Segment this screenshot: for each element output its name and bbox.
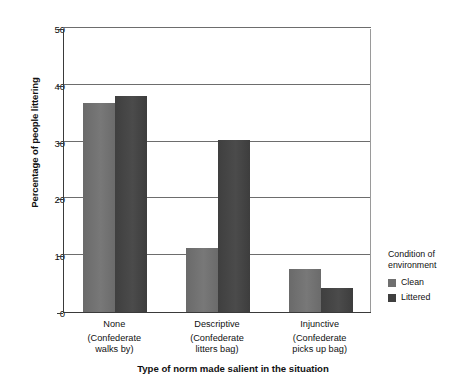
legend-title-line-1: Condition of [388, 249, 466, 260]
legend-label-littered: Littered [401, 292, 430, 303]
legend: Condition of environment CleanLittered [388, 249, 466, 307]
bar-injunctive-littered [321, 288, 353, 312]
x-tick-label-sub-2: picks up bag) [265, 344, 375, 356]
legend-title: Condition of environment [388, 249, 466, 271]
legend-swatch-clean-icon [388, 279, 396, 287]
bar-injunctive-clean [289, 269, 321, 312]
x-tick-label-primary: None [59, 319, 169, 331]
x-tick-label-sub-2: walks by) [59, 344, 169, 356]
legend-items: CleanLittered [388, 277, 466, 303]
x-tick-label-descriptive: Descriptive(Confederatelitters bag) [162, 319, 272, 356]
x-tick-label-sub-1: (Confederate [59, 333, 169, 345]
legend-label-clean: Clean [401, 277, 424, 288]
legend-swatch-littered-icon [388, 294, 396, 302]
y-tick-mark-0 [57, 313, 63, 314]
bar-descriptive-clean [186, 248, 218, 312]
legend-title-line-2: environment [388, 260, 466, 271]
plot-area [63, 29, 371, 313]
x-tick-label-primary: Injunctive [265, 319, 375, 331]
bar-chart-figure: Percentage of people littering 010203040… [0, 0, 466, 381]
x-axis-title: Type of norm made salient in the situati… [0, 363, 466, 374]
x-tick-label-none: None(Confederatewalks by) [59, 319, 169, 356]
x-tick-label-sub-1: (Confederate [162, 333, 272, 345]
x-tick-label-injunctive: Injunctive(Confederatepicks up bag) [265, 319, 375, 356]
legend-item-clean: Clean [388, 277, 466, 288]
legend-item-littered: Littered [388, 292, 466, 303]
plot-right-border [370, 29, 371, 312]
bar-none-littered [115, 96, 147, 312]
x-tick-label-sub-2: litters bag) [162, 344, 272, 356]
bar-none-clean [83, 103, 115, 312]
gridline-40 [64, 84, 371, 85]
x-tick-label-primary: Descriptive [162, 319, 272, 331]
x-tick-label-sub-1: (Confederate [265, 333, 375, 345]
gridline-50 [64, 27, 371, 28]
bar-descriptive-littered [218, 140, 250, 312]
